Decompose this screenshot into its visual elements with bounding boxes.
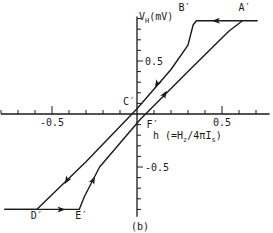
hysteresis-loop: [4, 18, 257, 213]
point-label: A′: [238, 2, 250, 13]
hysteresis-chart: -0.50.50.5-0.5A′B′C′D′E′F′VH(mV)h (=Hz/4…: [0, 0, 273, 233]
y-tick-label: 0.5: [145, 56, 163, 67]
arrow-down-icon: [152, 79, 161, 89]
point-label: D′: [31, 210, 43, 221]
y-tick-label: -0.5: [145, 162, 169, 173]
point-label: B′: [179, 2, 191, 13]
loop-branch-ascending: [4, 21, 242, 210]
arrow-head-icon: [89, 175, 98, 185]
y-axis-label: VH(mV): [139, 11, 173, 25]
x-tick-label: 0.5: [213, 117, 231, 128]
panel-label: (b): [131, 221, 149, 232]
point-label: C′: [123, 96, 135, 107]
arrow-up-icon: [89, 175, 98, 185]
loop-branch-descending: [4, 21, 257, 210]
labels: -0.50.50.5-0.5A′B′C′D′E′F′VH(mV)h (=Hz/4…: [31, 2, 251, 232]
x-tick-label: -0.5: [40, 117, 64, 128]
point-label: F′: [146, 119, 158, 130]
x-axis-label: h (=Hz/4πIs): [153, 130, 222, 144]
point-label: E′: [75, 210, 87, 221]
arrow-head-icon: [152, 79, 161, 89]
